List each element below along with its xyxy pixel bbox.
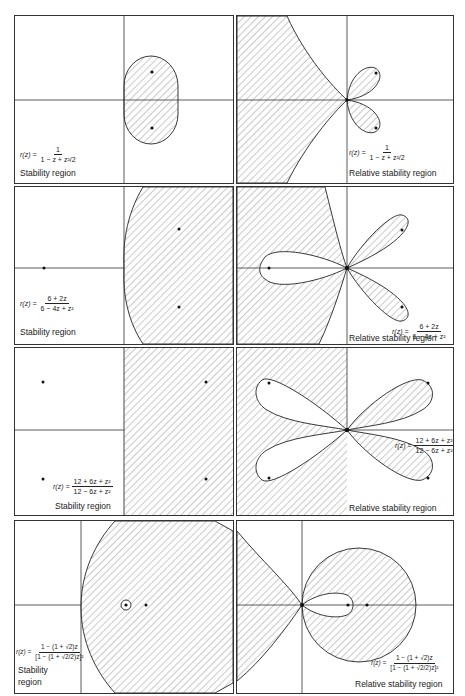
- zero-point: [42, 478, 45, 481]
- caption-row3-relative: Relative stability region: [349, 503, 436, 513]
- stability-region: [124, 187, 233, 344]
- stability-region-disk: [81, 521, 233, 693]
- zero-point: [43, 267, 46, 270]
- formula-row4-relative: r(z) = 1 − (1 + √2)z[1 − (1 + √2/2)z]²: [371, 655, 440, 671]
- pole-point: [178, 228, 181, 231]
- pole-point: [205, 478, 208, 481]
- origin-point: [345, 266, 349, 270]
- pole-point: [145, 604, 148, 607]
- plot-row3-relative: [237, 348, 453, 515]
- formula-row2: r(z) = 6 + 2z6 − 4z + z²: [20, 295, 76, 312]
- pole-point: [375, 72, 378, 75]
- caption-row4-relative: Relative stability region: [355, 679, 442, 689]
- caption-row4-stability-line2: region: [18, 677, 42, 687]
- caption-row3-stability: Stability region: [55, 501, 111, 511]
- formula-row3-relative: r(z) = 12 + 6z + z²12 − 6z + z²: [395, 437, 454, 454]
- panel-row4-stability: r(z) = 1 − (1 + √2)z[1 − (1 + √2/2)z]² S…: [14, 520, 234, 694]
- caption-row4-stability-line1: Stability: [18, 665, 48, 675]
- caption-row2-stability: Stability region: [20, 327, 76, 337]
- formula-row4: r(z) = 1 − (1 + √2)z[1 − (1 + √2/2)z]²: [16, 644, 85, 660]
- stability-region-oval: [124, 56, 178, 144]
- panel-row2-relative: r(z) = 6 + 2z6 − 4z + z² Relative stabil…: [236, 186, 454, 345]
- plot-row2-stability: [15, 187, 233, 344]
- formula-row1: r(z) = 11 − z + z²/2: [20, 146, 78, 163]
- pole-point: [150, 126, 153, 129]
- panel-row1-relative: r(z) = 11 − z + z²/2 Relative stability …: [236, 15, 454, 184]
- caption-row1-relative: Relative stability region: [349, 168, 436, 178]
- pole-point: [401, 306, 404, 309]
- origin-point: [345, 428, 349, 432]
- formula-row3: r(z) = 12 + 6z + z²12 − 6z + z²: [53, 478, 113, 495]
- panel-row2-stability: r(z) = 6 + 2z6 − 4z + z² Stability regio…: [14, 186, 234, 345]
- pole-point: [427, 382, 430, 385]
- zero-point: [346, 603, 349, 606]
- plot-row1-relative: [237, 16, 453, 183]
- relative-region-left: [237, 531, 302, 681]
- panel-row3-relative: r(z) = 12 + 6z + z²12 − 6z + z² Relative…: [236, 347, 454, 516]
- origin-point: [345, 98, 349, 102]
- pole-point: [375, 127, 378, 130]
- formula-row1-relative: r(z) = 11 − z + z²/2: [349, 144, 407, 161]
- panel-row4-relative: r(z) = 1 − (1 + √2)z[1 − (1 + √2/2)z]² R…: [236, 520, 454, 694]
- pole-point: [427, 477, 430, 480]
- pole-point: [178, 306, 181, 309]
- origin-point: [300, 603, 304, 607]
- zero-point: [42, 381, 45, 384]
- relative-region-left: [237, 16, 347, 183]
- pole-point: [401, 229, 404, 232]
- panel-row3-stability: r(z) = 12 + 6z + z²12 − 6z + z² Stabilit…: [14, 347, 234, 516]
- petal-lower-right: [347, 268, 408, 321]
- zero-point: [268, 382, 271, 385]
- zero-point: [268, 267, 271, 270]
- zero-point: [268, 477, 271, 480]
- plot-row3-stability: [15, 348, 233, 515]
- caption-row1-stability: Stability region: [20, 168, 76, 178]
- caption-row2-relative: Relative stability region: [349, 333, 436, 343]
- panel-row1-stability: r(z) = 11 − z + z²/2 Stability region: [14, 15, 234, 184]
- petal-upper-right: [347, 380, 433, 430]
- stability-region-right-half-plane: [124, 348, 233, 515]
- pole-point: [365, 603, 368, 606]
- pole-point: [150, 70, 153, 73]
- pole-point: [205, 381, 208, 384]
- relative-region-left-half: [237, 348, 347, 515]
- plot-row2-relative: [237, 187, 453, 344]
- petal-upper-right: [347, 215, 408, 268]
- zero-point: [124, 603, 127, 606]
